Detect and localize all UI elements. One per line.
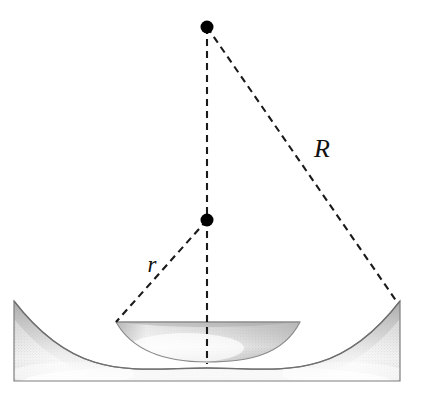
radius-small-line [116, 220, 207, 322]
radius-large-line [207, 27, 397, 302]
apex-point [201, 21, 214, 34]
dashed-lines-group [116, 27, 397, 364]
figure-root: R r [0, 0, 425, 400]
geometry-diagram-svg: R r [0, 0, 425, 400]
radius-large-label: R [313, 134, 330, 163]
radius-small-label: r [148, 252, 158, 277]
spherical-cap-highlight [128, 333, 244, 363]
center-point [201, 214, 214, 227]
